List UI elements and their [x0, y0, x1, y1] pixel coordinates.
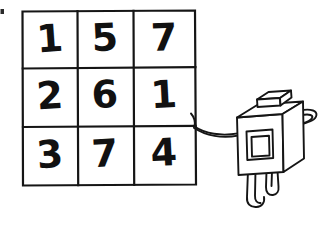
stray-mark: [1, 9, 5, 14]
grid-cell-r2c1: 2: [35, 73, 64, 119]
grid-hline-2: [23, 126, 196, 127]
grid-vline-1: [78, 11, 79, 185]
grid-cell-r1c2: 5: [91, 15, 120, 60]
grid-cell-r3c2: 7: [91, 131, 120, 176]
robot-body-right: [283, 102, 305, 173]
sketch-canvas: 1 5 7 2 6 1 3 7 4: [0, 0, 335, 229]
robot-face-window-inner: [252, 136, 270, 157]
grid-hline-1: [23, 67, 196, 68]
grid-cell-r2c2: 6: [91, 72, 120, 117]
grid-vline-2: [134, 11, 135, 185]
grid-cell-r2c3: 1: [150, 72, 179, 117]
grid-cell-r1c1: 1: [35, 16, 64, 62]
grid-cell-r3c3: 4: [150, 130, 179, 175]
robot-head-block-front: [257, 98, 281, 107]
grid-cell-r3c1: 3: [35, 131, 65, 177]
grid-cell-r1c3: 7: [150, 15, 178, 60]
